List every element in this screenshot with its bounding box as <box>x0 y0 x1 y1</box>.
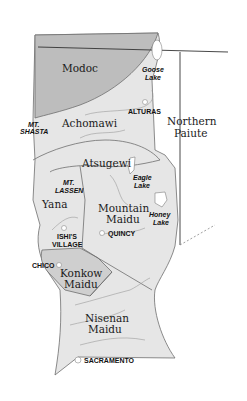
label-honey-lake-2: Lake <box>153 219 169 226</box>
label-achomawi: Achomawi <box>61 117 118 129</box>
label-northern-paiute-1: Northern <box>167 115 217 127</box>
label-nisenan-maidu-2: Maidu <box>88 323 122 335</box>
tribal-territory-map: Modoc Achomawi Northern Paiute Atsugewi … <box>0 0 247 401</box>
label-alturas: ALTURAS <box>128 108 161 115</box>
label-yana: Yana <box>41 198 67 210</box>
label-ishis-village-1: ISHI'S <box>57 233 77 240</box>
label-ishis-village-2: VILLAGE <box>52 241 83 248</box>
label-chico: CHICO <box>32 262 55 269</box>
label-goose-lake-1: Goose <box>142 66 164 73</box>
alturas-marker <box>143 100 148 105</box>
label-mt-lassen-1: MT. <box>63 179 75 186</box>
label-eagle-lake-2: Lake <box>134 182 150 189</box>
label-mt-shasta-2: SHASTA <box>20 128 48 135</box>
label-goose-lake-2: Lake <box>145 74 161 81</box>
label-eagle-lake-1: Eagle <box>133 174 152 182</box>
label-sacramento: SACRAMENTO <box>84 357 135 364</box>
sacramento-marker <box>75 357 81 363</box>
label-konkow-maidu-2: Maidu <box>64 278 98 290</box>
label-northern-paiute-2: Paiute <box>174 127 207 139</box>
label-modoc: Modoc <box>62 62 98 74</box>
label-mt-shasta-1: MT. <box>28 121 40 128</box>
goose-lake-shape <box>152 40 162 60</box>
quincy-marker <box>100 231 105 236</box>
nevada-dotted-line <box>180 225 215 245</box>
label-mountain-maidu-2: Maidu <box>106 213 140 225</box>
label-mt-lassen-2: LASSEN <box>55 187 84 194</box>
label-quincy: QUINCY <box>108 230 136 238</box>
label-honey-lake-1: Honey <box>149 211 172 219</box>
label-atsugewi: Atsugewi <box>81 157 132 169</box>
ishis-village-marker <box>62 226 67 231</box>
